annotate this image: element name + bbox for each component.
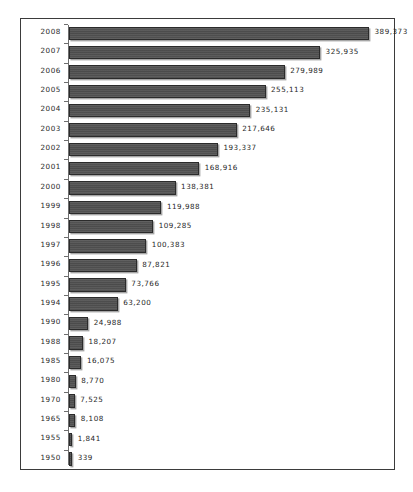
axis-tick <box>64 82 68 83</box>
bar-value-label: 8,108 <box>81 414 104 423</box>
bar-row: 1999119,988 <box>21 198 394 217</box>
bar-value-label: 168,916 <box>205 163 238 172</box>
axis-tick <box>64 218 68 219</box>
bar-row: 199687,821 <box>21 256 394 275</box>
category-label: 1950 <box>21 453 61 462</box>
category-label: 2004 <box>21 104 61 113</box>
bar-value-label: 63,200 <box>123 298 151 307</box>
bar-value-label: 16,075 <box>87 356 115 365</box>
axis-tick <box>64 237 68 238</box>
bar-fill <box>69 278 126 291</box>
bar-row: 2005255,113 <box>21 82 394 101</box>
bar-value-label: 217,646 <box>242 124 275 133</box>
axis-tick <box>64 450 68 451</box>
axis-tick <box>64 159 68 160</box>
bar <box>69 181 176 194</box>
bar-value-label: 339 <box>78 453 93 462</box>
bar-fill <box>69 85 266 98</box>
axis-tick <box>64 63 68 64</box>
bar-row: 2002193,337 <box>21 140 394 159</box>
bar-fill <box>69 414 75 427</box>
bar-value-label: 138,381 <box>181 182 214 191</box>
category-label: 2001 <box>21 162 61 171</box>
bar-row: 19551,841 <box>21 430 394 449</box>
axis-tick <box>64 334 68 335</box>
bar-fill <box>69 104 250 117</box>
bar-value-label: 87,821 <box>142 260 170 269</box>
bar-fill <box>69 356 81 369</box>
category-label: 1999 <box>21 201 61 210</box>
bar <box>69 27 369 40</box>
bar-fill <box>69 433 72 446</box>
bar <box>69 65 285 78</box>
category-label: 2003 <box>21 124 61 133</box>
category-label: 2007 <box>21 46 61 55</box>
category-label: 1995 <box>21 279 61 288</box>
axis-tick <box>64 256 68 257</box>
bar <box>69 123 237 136</box>
bar-fill <box>69 336 83 349</box>
bar-fill <box>69 239 146 252</box>
bar-row: 198818,207 <box>21 334 394 353</box>
bar-row: 1998109,285 <box>21 218 394 237</box>
category-label: 1970 <box>21 395 61 404</box>
axis-tick <box>64 24 68 25</box>
axis-tick <box>64 101 68 102</box>
bar <box>69 104 250 117</box>
bar <box>69 162 199 175</box>
bar-fill <box>69 297 118 310</box>
bar <box>69 394 75 407</box>
bar-value-label: 193,337 <box>223 143 256 152</box>
bar <box>69 259 137 272</box>
bar-value-label: 18,207 <box>89 337 117 346</box>
bar-value-label: 7,525 <box>80 395 103 404</box>
category-label: 1998 <box>21 221 61 230</box>
bar <box>69 414 75 427</box>
bar-row: 198516,075 <box>21 353 394 372</box>
bar-row: 2001168,916 <box>21 159 394 178</box>
bar-row: 199463,200 <box>21 295 394 314</box>
axis-tick <box>64 121 68 122</box>
bar <box>69 356 81 369</box>
bar-value-label: 235,131 <box>256 105 289 114</box>
bar-value-label: 119,988 <box>167 202 200 211</box>
bar-fill <box>69 27 369 40</box>
bar <box>69 85 266 98</box>
bar <box>69 278 126 291</box>
bar-value-label: 1,841 <box>78 434 101 443</box>
bar-fill <box>69 317 88 330</box>
bar-row: 199024,988 <box>21 314 394 333</box>
bar <box>69 297 118 310</box>
bar-fill <box>69 65 285 78</box>
category-label: 2002 <box>21 143 61 152</box>
bar-row: 2003217,646 <box>21 121 394 140</box>
bar <box>69 433 72 446</box>
category-label: 1955 <box>21 433 61 442</box>
bar-fill <box>69 259 137 272</box>
bar <box>69 452 72 465</box>
bar-fill <box>69 123 237 136</box>
bar-row: 19808,770 <box>21 372 394 391</box>
bar-fill <box>69 375 76 388</box>
bar <box>69 317 88 330</box>
category-label: 1990 <box>21 317 61 326</box>
bar-fill <box>69 162 199 175</box>
category-label: 1996 <box>21 259 61 268</box>
bar <box>69 239 146 252</box>
bar-fill <box>69 46 320 59</box>
bar-fill <box>69 201 161 214</box>
category-label: 1997 <box>21 240 61 249</box>
axis-tick <box>64 314 68 315</box>
bar-row: 19707,525 <box>21 392 394 411</box>
bar-fill <box>69 143 218 156</box>
axis-tick <box>64 198 68 199</box>
bar-fill <box>69 220 153 233</box>
bar-value-label: 73,766 <box>131 279 159 288</box>
axis-tick <box>64 411 68 412</box>
axis-tick <box>64 43 68 44</box>
bar <box>69 46 320 59</box>
bar-value-label: 389,373 <box>375 27 408 36</box>
axis-tick <box>64 353 68 354</box>
category-label: 1988 <box>21 337 61 346</box>
bar-row: 1950339 <box>21 450 394 469</box>
